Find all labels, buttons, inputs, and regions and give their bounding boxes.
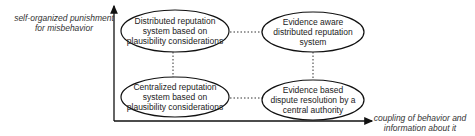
x-axis-label: coupling of behavior and information abo… [370, 113, 470, 133]
node-line: central authority [270, 105, 355, 115]
node-line: distributed reputation [273, 27, 352, 37]
node-line: system based on [127, 92, 223, 102]
x-axis-label-line2: information about it [370, 123, 470, 133]
node-line: system based on [127, 26, 223, 36]
node-centralized-plausibility: Centralized reputationsystem based onpla… [121, 77, 229, 117]
node-line: plausibility considerations [127, 36, 223, 46]
node-evidence-aware: Evidence awaredistributed reputationsyst… [262, 12, 364, 52]
node-line: dispute resolution by a [270, 95, 355, 105]
node-line: plausibility considerations [127, 102, 223, 112]
x-axis-label-line1: coupling of behavior and [370, 113, 470, 123]
node-line: Distributed reputation [127, 16, 223, 26]
y-axis-label-line1: self-organized punishment [14, 13, 114, 23]
node-line: Evidence based [270, 85, 355, 95]
node-line: Centralized reputation [127, 82, 223, 92]
node-line: system [273, 37, 352, 47]
y-axis-label: self-organized punishment for misbehavio… [14, 13, 114, 33]
y-axis-label-line2: for misbehavior [14, 23, 114, 33]
node-line: Evidence aware [273, 17, 352, 27]
node-evidence-dispute: Evidence baseddispute resolution by acen… [262, 80, 364, 120]
node-distributed-plausibility: Distributed reputationsystem based onpla… [121, 11, 229, 51]
